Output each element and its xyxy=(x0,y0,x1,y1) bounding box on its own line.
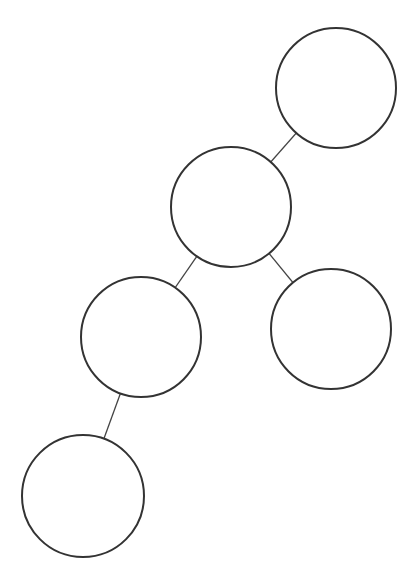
node-left-child xyxy=(81,277,201,397)
nodes xyxy=(22,28,396,557)
node-middle xyxy=(171,147,291,267)
node-right-child xyxy=(271,269,391,389)
tree-diagram xyxy=(0,0,409,583)
node-leaf xyxy=(22,435,144,557)
node-root xyxy=(276,28,396,148)
